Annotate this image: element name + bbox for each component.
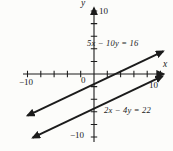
x-axis-label: x: [163, 60, 167, 70]
axes: [23, 8, 164, 142]
line1-equation-label: 5x − 10y = 16: [87, 39, 138, 48]
origin-label: 0: [81, 76, 86, 85]
y-min-tick-label: −10: [70, 131, 84, 140]
y-max-tick-label: 10: [99, 7, 108, 16]
x-min-tick-label: −10: [19, 78, 33, 87]
x-max-tick-label: 10: [149, 81, 158, 90]
line2-equation-label: 2x − 4y = 22: [104, 106, 151, 115]
graph-figure: y 10 5x − 10y = 16 x −10 0 10 2x − 4y = …: [0, 0, 173, 151]
coordinate-plane: [0, 0, 173, 151]
y-axis-label: y: [81, 0, 85, 9]
